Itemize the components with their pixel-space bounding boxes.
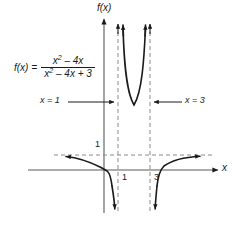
fraction-numerator: x2 – 4x — [50, 56, 87, 67]
graph-canvas — [0, 0, 237, 229]
function-equation-lhs: f(x) — [14, 63, 28, 73]
curve-group — [66, 25, 200, 209]
x-axis-tick-label-3: 3 — [154, 173, 159, 182]
vertical-asymptote-x-1-label: x = 1 — [40, 96, 60, 105]
x-axis-tick-label-1: 1 — [122, 173, 127, 182]
left-branch-curve-lower — [112, 186, 115, 209]
axes-group — [28, 19, 218, 213]
function-equation-equals: = — [31, 63, 37, 73]
middle-branch-curve — [123, 28, 146, 105]
denominator-rest: – 4x + 3 — [53, 68, 92, 79]
vertical-asymptote-x-3-label: x = 3 — [185, 96, 205, 105]
asymptotes-group — [54, 25, 212, 213]
function-equation-fraction: x2 – 4x x2 – 4x + 3 — [41, 56, 95, 79]
function-graph-figure: f(x) = x2 – 4x x2 – 4x + 3 f(x) x x = 1 … — [0, 0, 237, 229]
fraction-denominator: x2 – 4x + 3 — [41, 68, 95, 79]
y-axis-label: f(x) — [97, 3, 111, 13]
right-branch-curve — [157, 156, 200, 186]
x-axis-label: x — [222, 163, 227, 173]
function-equation-label: f(x) = x2 – 4x x2 – 4x + 3 — [14, 56, 95, 79]
right-branch-curve-lower — [155, 186, 157, 209]
left-branch-curve — [66, 157, 112, 187]
y-axis-tick-label-1: 1 — [95, 140, 100, 149]
numerator-rest: – 4x — [62, 55, 84, 66]
